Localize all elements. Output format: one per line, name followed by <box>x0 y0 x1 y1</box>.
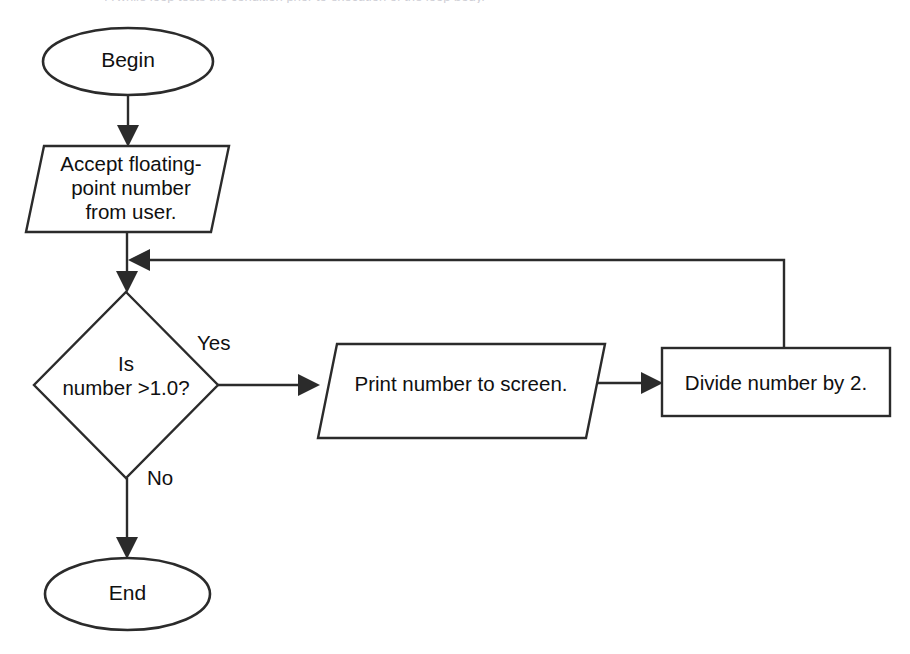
edge-accept-to-decision-arrowhead <box>116 271 138 293</box>
node-end-shape <box>45 558 210 630</box>
node-decision-shape <box>34 292 218 478</box>
edge-divide-to-decision-line <box>142 260 784 348</box>
node-print-shape <box>318 344 605 438</box>
edge-divide-to-decision-arrowhead <box>128 249 150 271</box>
edge-print-to-divide-arrowhead <box>641 372 663 394</box>
flowchart-canvas <box>0 0 910 654</box>
edge-begin-to-accept-arrowhead <box>117 125 139 147</box>
edge-decision-to-print-arrowhead <box>298 374 320 396</box>
edge-decision-to-end-arrowhead <box>116 537 138 559</box>
node-begin-shape <box>43 28 213 95</box>
flowchart-diagram: A while loop tests the condition prior t… <box>0 0 910 654</box>
edge-label-no: No <box>147 466 173 490</box>
node-divide-shape <box>662 348 890 416</box>
edge-label-yes: Yes <box>197 331 230 355</box>
node-accept-shape <box>26 146 229 232</box>
